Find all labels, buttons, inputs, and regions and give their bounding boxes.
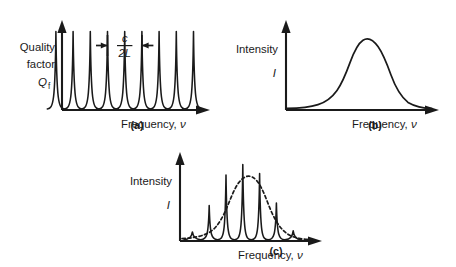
y-axis-label-b: Intensity xyxy=(236,43,278,55)
panel-caption-c: (c) xyxy=(256,245,296,257)
y-axis-label-line2: factor xyxy=(27,58,55,70)
resonance-peak xyxy=(151,32,168,110)
spacing-arrow-right-head xyxy=(142,43,149,49)
y-axis-arrowhead-b xyxy=(281,20,290,33)
spacing-numerator: c xyxy=(122,32,128,44)
y-axis-label-subscript: f xyxy=(48,82,51,91)
x-axis-symbol-a: ν xyxy=(180,117,186,130)
x-axis-symbol-c: ν xyxy=(297,248,303,261)
y-axis-arrowhead-a xyxy=(57,20,66,33)
gain-envelope xyxy=(182,176,312,239)
mode-peak xyxy=(201,206,218,240)
resonance-peak xyxy=(185,32,202,110)
x-axis-arrowhead-b xyxy=(425,105,439,114)
resonance-peak xyxy=(168,32,185,110)
gain-curve xyxy=(287,39,432,109)
y-axis-arrowhead-c xyxy=(175,152,184,165)
panel-a-plot: c 2L Quality factor Q f Frequency, ν xyxy=(0,2,222,138)
spacing-denominator: 2L xyxy=(117,47,130,59)
y-axis-label-line1: Quality xyxy=(20,41,56,53)
x-axis-arrowhead-c xyxy=(308,236,322,245)
y-axis-symbol-b: I xyxy=(273,66,277,79)
mode-peak xyxy=(251,174,268,240)
mode-peak xyxy=(218,175,235,240)
panel-c-plot: Intensity I Frequency, ν xyxy=(112,140,368,267)
mode-peak xyxy=(184,232,201,240)
panel-a: c 2L Quality factor Q f Frequency, ν xyxy=(0,2,222,138)
y-axis-label-symbol: Q xyxy=(38,75,47,88)
x-axis-symbol-b: ν xyxy=(411,117,417,130)
panel-b: Intensity I Frequency, ν xyxy=(222,2,456,138)
resonance-peak xyxy=(65,32,82,110)
panel-b-plot: Intensity I Frequency, ν xyxy=(222,2,456,138)
laser-mode-figure: c 2L Quality factor Q f Frequency, ν Int… xyxy=(0,0,456,267)
panel-c: Intensity I Frequency, ν xyxy=(112,140,368,267)
resonance-peak xyxy=(82,32,99,110)
y-axis-label-c: Intensity xyxy=(130,175,172,187)
longitudinal-mode-peaks xyxy=(184,165,302,240)
spacing-arrow-left-head xyxy=(101,43,108,49)
panel-caption-a: (a) xyxy=(117,119,157,131)
panel-caption-b: (b) xyxy=(355,119,395,131)
mode-spacing-annotation: c 2L xyxy=(96,32,153,59)
y-axis-symbol-c: I xyxy=(167,198,171,211)
